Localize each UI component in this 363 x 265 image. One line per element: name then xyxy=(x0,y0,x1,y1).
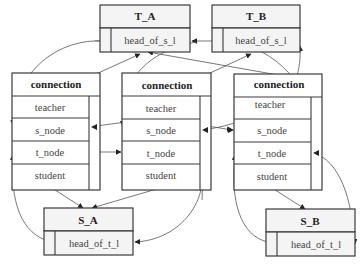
node-connection-3[interactable]: connection teacher s_node t_node student xyxy=(234,74,322,190)
node-t-a[interactable]: T_A head_of_s_l xyxy=(100,5,190,52)
node-s-a-title: S_A xyxy=(78,214,98,226)
connection-2-title: connection xyxy=(142,79,193,91)
node-s-a-field: head_of_t_l xyxy=(69,238,119,249)
connection-1-student: student xyxy=(35,170,65,181)
connection-3-t-node: t_node xyxy=(258,148,287,159)
node-t-b-field: head_of_s_l xyxy=(235,35,286,46)
connection-2-s-node: s_node xyxy=(146,125,176,136)
connection-3-student: student xyxy=(257,171,287,182)
node-t-b[interactable]: T_B head_of_s_l xyxy=(212,5,300,52)
node-t-a-field: head_of_s_l xyxy=(124,35,175,46)
node-s-b-title: S_B xyxy=(301,215,321,227)
connection-2-t-node: t_node xyxy=(147,148,176,159)
node-t-a-title: T_A xyxy=(135,10,156,22)
edge-conn1-student-to-sa xyxy=(52,188,83,208)
connection-2-student: student xyxy=(146,170,176,181)
connection-1-s-node: s_node xyxy=(35,125,65,136)
edge-conn3-student-to-sb xyxy=(272,188,305,209)
arrowhead-conn3-snode-left xyxy=(228,127,234,133)
node-s-b-field: head_of_t_l xyxy=(291,239,341,250)
connection-3-title: connection xyxy=(254,78,305,90)
connection-1-teacher: teacher xyxy=(35,102,66,113)
edge-conn2-student-to-sa xyxy=(92,188,160,208)
diagram-canvas: T_A head_of_s_l T_B head_of_s_l connecti… xyxy=(0,0,363,265)
connection-1-t-node: t_node xyxy=(36,147,65,158)
connection-3-teacher: teacher xyxy=(255,99,286,110)
connection-1-title: connection xyxy=(31,78,82,90)
node-s-a[interactable]: S_A head_of_t_l xyxy=(44,208,133,255)
node-connection-2[interactable]: connection teacher s_node t_node student xyxy=(122,73,211,190)
connection-2-teacher: teacher xyxy=(146,103,177,114)
node-t-b-title: T_B xyxy=(246,10,267,22)
connection-3-s-node: s_node xyxy=(257,125,287,136)
node-connection-1[interactable]: connection teacher s_node t_node student xyxy=(12,73,100,190)
node-s-b[interactable]: S_B head_of_t_l xyxy=(266,209,355,256)
